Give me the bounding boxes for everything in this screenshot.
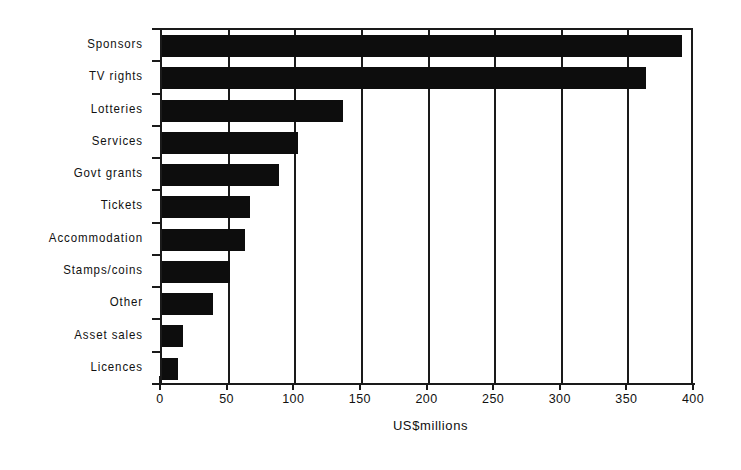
bar-chart: SponsorsTV rightsLotteriesServicesGovt g… bbox=[0, 0, 741, 470]
y-axis-label-govt-grants: Govt grants bbox=[0, 157, 152, 189]
y-axis-label-stamps-coins: Stamps/coins bbox=[0, 254, 152, 286]
y-axis-label-text: TV rights bbox=[89, 70, 143, 83]
y-axis-labels: SponsorsTV rightsLotteriesServicesGovt g… bbox=[0, 28, 152, 383]
y-axis-label-text: Tickets bbox=[101, 199, 143, 212]
y-axis-label-asset-sales: Asset sales bbox=[0, 318, 152, 350]
y-axis-label-tv-rights: TV rights bbox=[0, 60, 152, 92]
y-axis-label-text: Other bbox=[110, 296, 143, 309]
y-axis-label-text: Licences bbox=[90, 360, 143, 373]
y-axis-tick bbox=[152, 157, 160, 159]
y-axis-tick bbox=[152, 351, 160, 353]
bar bbox=[162, 100, 343, 122]
bar-row bbox=[162, 256, 691, 288]
bars bbox=[162, 30, 691, 383]
x-axis-tick-label: 250 bbox=[463, 392, 523, 406]
bar bbox=[162, 293, 213, 315]
y-axis-tick bbox=[152, 254, 160, 256]
x-axis-tick-label: 50 bbox=[197, 392, 257, 406]
x-axis-tick-label: 350 bbox=[596, 392, 656, 406]
y-axis-tick bbox=[152, 286, 160, 288]
bar-row bbox=[162, 224, 691, 256]
x-axis-tick bbox=[492, 383, 494, 390]
bar-row bbox=[162, 62, 691, 94]
x-axis-tick bbox=[359, 383, 361, 390]
y-axis-label-other: Other bbox=[0, 286, 152, 318]
bar bbox=[162, 358, 178, 380]
bar-row bbox=[162, 191, 691, 223]
bar-row bbox=[162, 95, 691, 127]
x-axis-tick-label: 400 bbox=[663, 392, 723, 406]
y-axis-tick bbox=[152, 125, 160, 127]
x-axis-tick-label: 200 bbox=[397, 392, 457, 406]
y-axis-label-services: Services bbox=[0, 125, 152, 157]
bar-row bbox=[162, 288, 691, 320]
y-axis-tick bbox=[152, 318, 160, 320]
x-axis-tick bbox=[426, 383, 428, 390]
bar-row bbox=[162, 159, 691, 191]
bar bbox=[162, 261, 230, 283]
x-axis-tick bbox=[292, 383, 294, 390]
y-axis-label-text: Asset sales bbox=[74, 328, 143, 341]
x-axis-tick-label: 300 bbox=[530, 392, 590, 406]
bar bbox=[162, 35, 682, 57]
y-axis-tick bbox=[152, 222, 160, 224]
x-axis-tick bbox=[159, 376, 161, 383]
y-axis-label-sponsors: Sponsors bbox=[0, 28, 152, 60]
x-axis-tick-label: 0 bbox=[130, 392, 190, 406]
x-axis-tick bbox=[159, 383, 161, 390]
x-axis-tick-label: 100 bbox=[263, 392, 323, 406]
y-axis-label-accommodation: Accommodation bbox=[0, 222, 152, 254]
x-axis-title-text: US$millions bbox=[393, 418, 468, 433]
y-axis-tick bbox=[152, 93, 160, 95]
x-axis-line bbox=[154, 383, 695, 385]
x-axis-tick bbox=[559, 383, 561, 390]
y-axis-label-text: Stamps/coins bbox=[63, 264, 143, 277]
bar bbox=[162, 132, 298, 154]
bar bbox=[162, 67, 646, 89]
bar bbox=[162, 229, 245, 251]
bar bbox=[162, 164, 279, 186]
bar-row bbox=[162, 353, 691, 385]
x-axis-title: US$millions bbox=[0, 418, 741, 433]
plot-area bbox=[160, 28, 693, 383]
y-axis-label-text: Accommodation bbox=[49, 231, 143, 244]
y-axis-label-text: Govt grants bbox=[74, 167, 143, 180]
bar-row bbox=[162, 30, 691, 62]
y-axis-label-licences: Licences bbox=[0, 351, 152, 383]
bar bbox=[162, 325, 183, 347]
y-axis-label-tickets: Tickets bbox=[0, 189, 152, 221]
y-axis-tick bbox=[152, 28, 160, 30]
y-axis-label-lotteries: Lotteries bbox=[0, 93, 152, 125]
y-axis-label-text: Sponsors bbox=[87, 38, 143, 51]
y-axis-label-text: Services bbox=[92, 135, 143, 148]
bar-row bbox=[162, 320, 691, 352]
y-axis-tick bbox=[152, 189, 160, 191]
y-axis-tick bbox=[152, 60, 160, 62]
x-axis-tick bbox=[625, 383, 627, 390]
x-axis-tick bbox=[692, 383, 694, 390]
x-axis-tick bbox=[226, 383, 228, 390]
x-axis-tick-label: 150 bbox=[330, 392, 390, 406]
y-axis-label-text: Lotteries bbox=[91, 102, 143, 115]
bar bbox=[162, 196, 250, 218]
bar-row bbox=[162, 127, 691, 159]
